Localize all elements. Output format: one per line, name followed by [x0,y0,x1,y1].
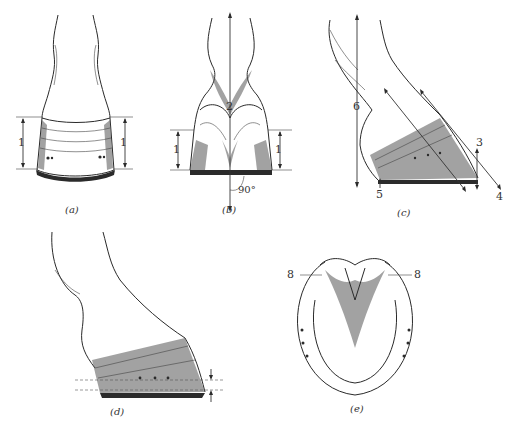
label-b-right-1: 1 [275,143,282,156]
panel-a-front-view [16,15,133,182]
label-c-4: 4 [496,190,503,203]
caption-e: (e) [350,403,364,414]
label-b-left-1: 1 [173,143,180,156]
caption-d: (d) [110,406,124,417]
panel-d-side-view [52,232,225,402]
caption-c: (c) [397,207,410,218]
label-a-right-1: 1 [120,136,127,149]
label-b-center-2: 2 [226,100,233,113]
label-c-6: 6 [353,100,360,113]
panel-e-sole-view [297,259,412,395]
label-b-angle: 90° [238,184,256,195]
label-c-3: 3 [476,136,483,149]
hoof-diagram [0,0,518,436]
caption-a: (a) [65,204,79,215]
label-e-right-8: 8 [414,268,421,281]
label-c-5: 5 [376,188,383,201]
label-e-left-8: 8 [287,268,294,281]
caption-b: (b) [222,204,236,215]
label-a-left-1: 1 [18,136,25,149]
